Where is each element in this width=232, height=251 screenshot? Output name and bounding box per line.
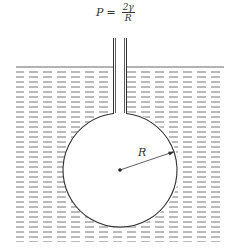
radius-label: R: [138, 146, 146, 159]
liquid-region: [16, 60, 224, 242]
pressure-formula: P = 2γ R: [96, 2, 135, 23]
formula-lhs: P: [96, 6, 103, 19]
formula-fraction: 2γ R: [122, 2, 135, 23]
formula-equals: =: [106, 6, 115, 19]
formula-denominator: R: [125, 13, 132, 23]
formula-numerator: 2γ: [122, 2, 135, 13]
bubble-diagram: [0, 0, 232, 251]
